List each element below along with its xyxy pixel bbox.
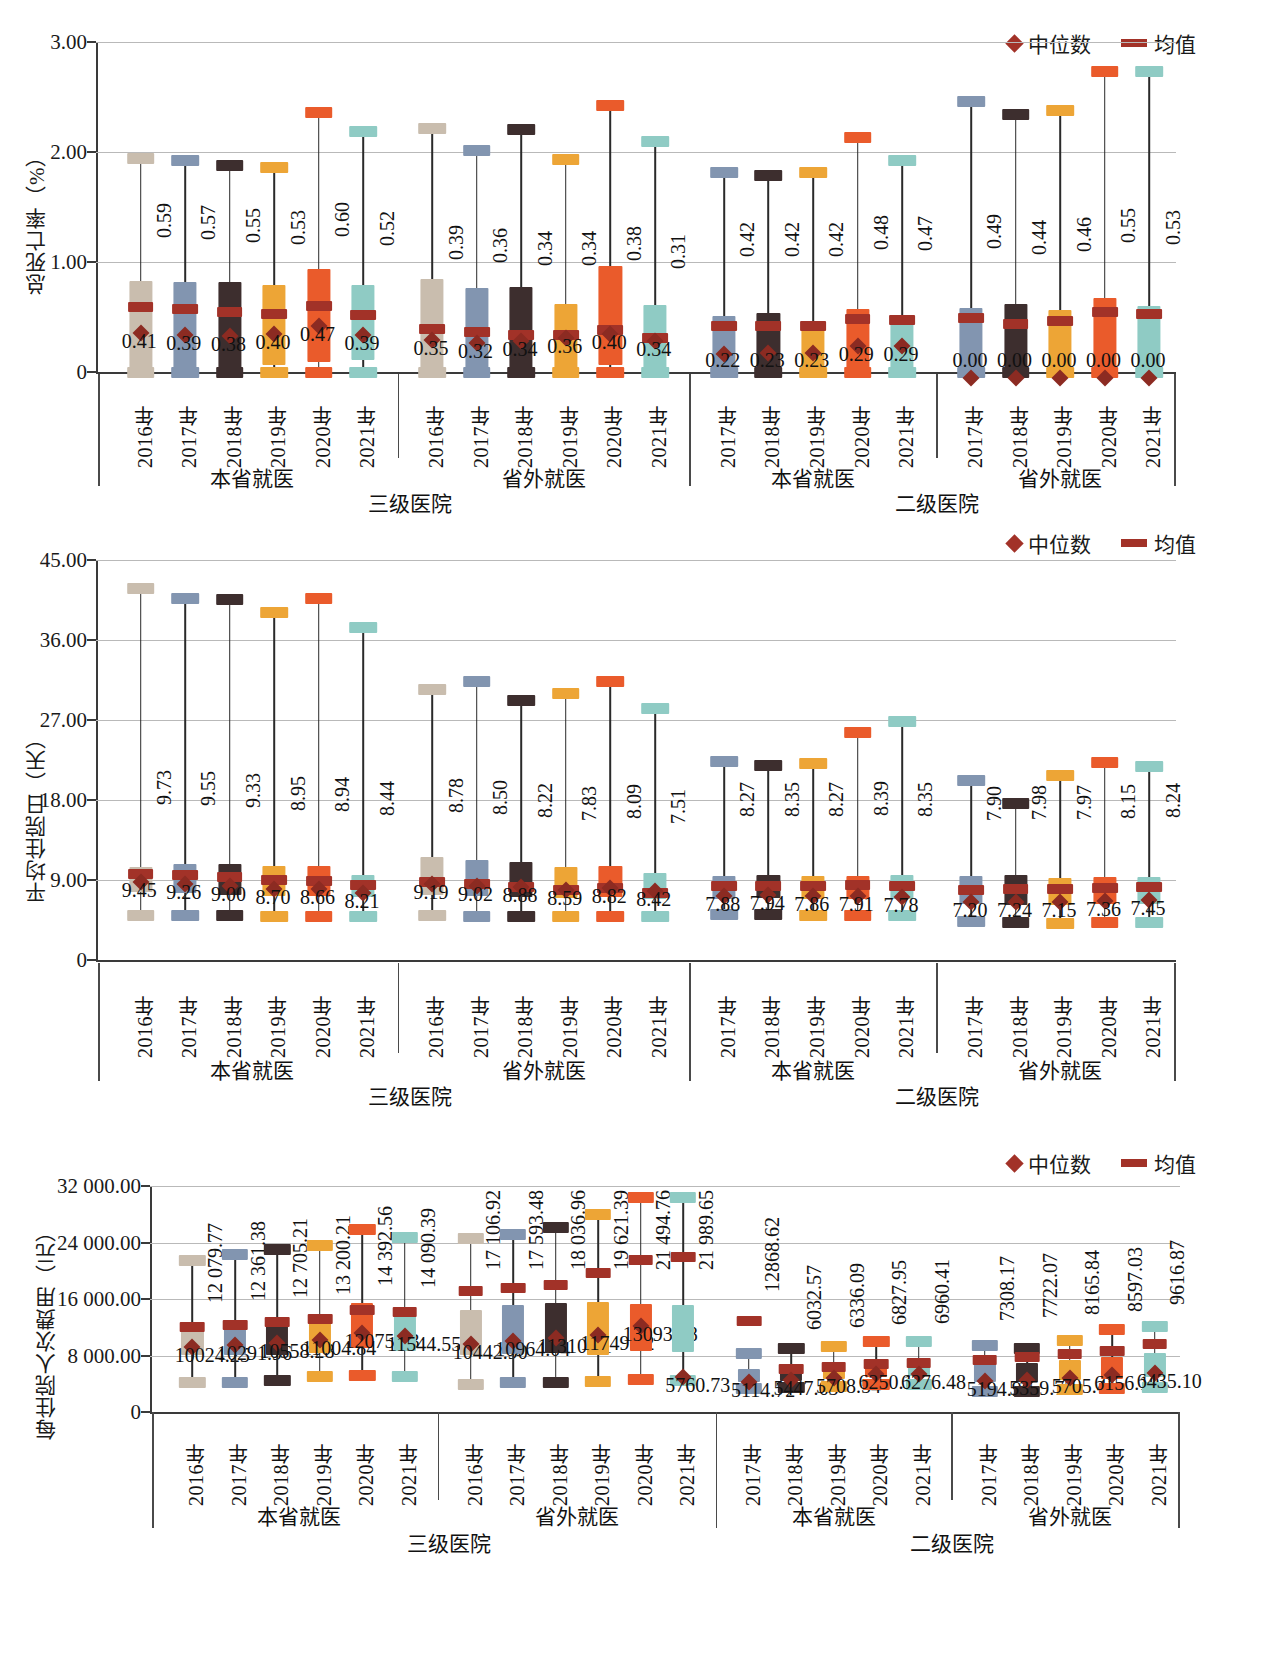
whisker-cap-upper [736,1348,762,1359]
legend-item-mean: 均值 [1121,1148,1196,1178]
frame-edge-left [98,374,100,486]
panel-level-label: 三级医院 [368,487,452,517]
whisker-cap-lower [585,1376,611,1387]
median-value-label: 7.88 [705,894,740,914]
whisker-cap-lower [349,367,377,378]
median-value-label: 0.35 [414,338,449,358]
median-value-label: 0.36 [547,336,582,356]
x-category-label: 2019年 [309,1420,338,1506]
y-tick-label: 0 [77,948,88,973]
whisker-cap-upper [349,622,377,633]
y-axis-label-length_of_stay: 平均住院日（天） [22,700,52,930]
mean-marker [756,321,782,331]
y-tick-label: 24 000.00 [57,1230,141,1255]
whisker-cap-upper [597,676,625,687]
median-value-label: 7.86 [794,894,829,914]
frame-edge-right [1178,1412,1180,1528]
mean-marker [350,310,376,320]
whisker-cap-upper [305,593,333,604]
x-category-label: 2019年 [1049,382,1078,468]
whisker-cap-lower [508,911,536,922]
whisker-line [640,1197,642,1379]
mean-marker [172,304,198,314]
whisker-cap-lower [627,1374,653,1385]
section-group-label: 省外就医 [1018,462,1102,492]
x-category-label: 2017年 [174,382,203,468]
mean-value-label: 8.44 [377,781,397,816]
whisker-cap-upper [392,1232,418,1243]
median-value-label: 8.66 [300,887,335,907]
x-category-label: 2016年 [421,382,450,468]
whisker-cap-upper [508,124,536,135]
median-value-label: 7.45 [1131,898,1166,918]
y-tick-mark [87,151,96,153]
median-value-label: 0.38 [211,334,246,354]
x-category-label: 2017年 [502,1420,531,1506]
x-category-label: 2021年 [352,972,381,1058]
x-category-label: 2021年 [1138,382,1167,468]
x-category-label: 2017年 [974,1420,1003,1506]
x-category-label: 2020年 [847,382,876,468]
median-value-label: 9.00 [211,884,246,904]
boxplot-series [746,42,791,372]
mean-marker [180,1322,205,1332]
median-value-label: 8.42 [636,889,671,909]
whisker-cap-lower [171,910,199,921]
panel-separator [716,1412,718,1528]
mean-marker [543,1280,568,1290]
x-category-label: 2018年 [757,382,786,468]
section-group-label: 本省就医 [771,1054,855,1084]
x-category-label: 2018年 [219,382,248,468]
whisker-cap-upper [597,100,625,111]
whisker-cap-upper [778,1343,804,1354]
whisker-cap-upper [127,583,155,594]
boxplot-series [252,42,297,372]
whisker-cap-upper [971,1340,997,1351]
legend-item-median: 中位数 [1008,1148,1091,1178]
whisker-cap-upper [418,684,446,695]
y-tick-label: 36.00 [40,628,87,653]
median-value-label: 7.91 [839,894,874,914]
whisker-cap-upper [1046,770,1074,781]
mean-marker [1047,884,1073,894]
whisker-cap-lower [641,911,669,922]
mean-marker [1136,882,1162,892]
whisker-cap-upper [844,132,872,143]
y-tick-mark [87,799,96,801]
y-tick-label: 16 000.00 [57,1287,141,1312]
whisker-cap-upper [222,1249,248,1260]
whisker-cap-lower [552,911,580,922]
section-separator [398,963,400,1053]
mean-marker [306,301,332,311]
boxplot-series [880,42,925,372]
whisker-cap-upper [458,1233,484,1244]
y-tick-mark [87,639,96,641]
x-category-label: 2016年 [130,972,159,1058]
whisker-cap-upper [710,756,738,767]
whisker-cap-upper [418,123,446,134]
plot-area-cost_per_admission: 08 000.0016 000.0024 000.0032 000.0012 0… [150,1186,1180,1412]
whisker-cap-upper [216,160,244,171]
whisker-cap-upper [641,703,669,714]
whisker-cap-upper [627,1192,653,1203]
median-value-label: 0.32 [458,341,493,361]
y-tick-label: 0 [131,1400,142,1425]
section-group-label: 本省就医 [771,462,855,492]
x-category-label: 2019年 [587,1420,616,1506]
whisker-cap-upper [463,145,491,156]
x-category-label: 2018年 [1005,382,1034,468]
mean-marker [711,321,737,331]
whisker-cap-lower [418,910,446,921]
median-value-label: 8.59 [547,888,582,908]
median-value-label: 9.45 [122,880,157,900]
mean-value-label: 0.31 [668,234,688,269]
y-tick-mark [141,1242,150,1244]
x-category-label: 2017年 [960,382,989,468]
y-tick-label: 27.00 [40,708,87,733]
median-value-label: 0.39 [166,333,201,353]
median-value-label: 9.26 [166,882,201,902]
mean-value-label: 14 090.39 [418,1208,438,1288]
section-group-label: 本省就医 [210,1054,294,1084]
mean-marker [458,1286,483,1296]
y-tick-mark [141,1355,150,1357]
